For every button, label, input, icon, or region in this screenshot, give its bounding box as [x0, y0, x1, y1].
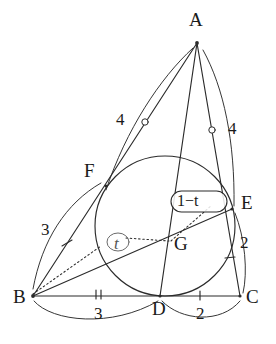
vertex-dot-A: [195, 41, 199, 45]
incircle: [95, 156, 235, 296]
ratio-label-one-minus-t: 1−t: [177, 193, 198, 209]
measure-label-BD: 3: [94, 305, 103, 322]
vertex-dots: [31, 41, 241, 298]
geometry-svg: [0, 0, 276, 344]
measure-label-AE: 4: [228, 120, 237, 137]
vertex-dot-B: [31, 294, 35, 298]
measure-label-DC: 2: [196, 305, 205, 322]
tick-AF-circle: [142, 119, 148, 125]
measure-label-EC: 2: [240, 234, 249, 251]
cevian-BE: [33, 209, 232, 296]
arc-EC: [235, 213, 245, 293]
vertex-label-C: C: [246, 287, 259, 306]
vertex-label-G: G: [174, 234, 188, 253]
measure-label-AF: 4: [116, 111, 125, 128]
tick-BF-single: [62, 240, 72, 246]
measure-label-BF: 3: [41, 221, 50, 238]
cevian-AD: [160, 43, 197, 296]
vertex-label-B: B: [13, 287, 26, 306]
vertex-label-D: D: [152, 299, 166, 318]
ratio-label-t: t: [114, 235, 119, 252]
side-AB: [33, 43, 197, 296]
vertex-dot-F: [104, 184, 107, 187]
diagram-canvas: A B C D E F G 4 4 3 3 2 2 t 1−t: [0, 0, 276, 344]
vertex-label-A: A: [189, 10, 203, 29]
tick-AE-circle: [209, 127, 215, 133]
vertex-dot-C: [238, 294, 241, 297]
vertex-dot-E: [230, 207, 233, 210]
vertex-label-F: F: [84, 161, 95, 180]
vertex-label-E: E: [241, 193, 253, 212]
